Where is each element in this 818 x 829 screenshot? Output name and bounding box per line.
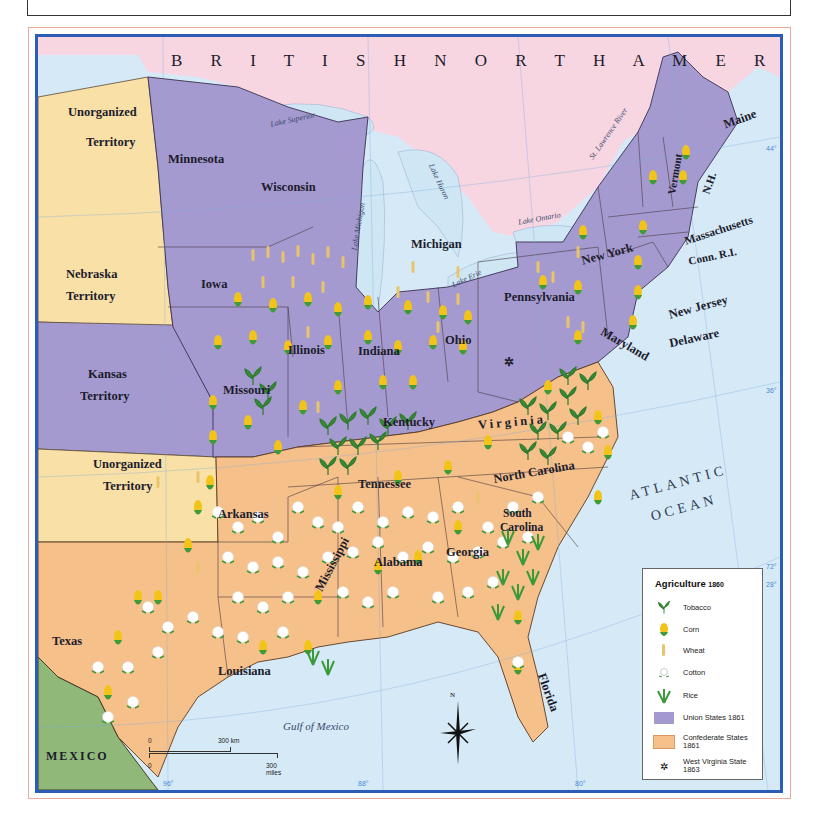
rice-icon xyxy=(653,689,675,703)
legend-item-union: Union States 1861 xyxy=(653,708,758,728)
label-minnesota: Minnesota xyxy=(168,152,224,167)
label-british-north-america: B R I T I S H N O R T H A M E R I C A xyxy=(171,51,783,71)
label-michigan: Michigan xyxy=(411,237,462,252)
label-tennessee: Tennessee xyxy=(358,477,411,492)
agriculture-map: B R I T I S H N O R T H A M E R I C A ME… xyxy=(35,34,783,793)
tobacco-icon xyxy=(653,601,675,615)
label-ohio: Ohio xyxy=(445,333,471,348)
label-georgia: Georgia xyxy=(446,545,489,560)
label-louisiana: Louisiana xyxy=(218,664,271,679)
lon-88-label: 88° xyxy=(358,780,369,787)
label-illinois: Illinois xyxy=(288,343,325,358)
lat-36-label: 36° xyxy=(766,387,777,394)
label-unorganized-south-2: Territory xyxy=(103,479,153,494)
label-texas: Texas xyxy=(52,634,82,649)
label-south-carolina: South xyxy=(503,507,532,519)
lat-44-label: 44° xyxy=(766,145,777,152)
west-virginia-icon: ✲ xyxy=(653,759,675,773)
legend-item-corn: Corn xyxy=(653,620,758,640)
corn-icon xyxy=(653,623,675,637)
label-nebraska-2: Territory xyxy=(66,289,116,304)
legend-item-wheat: Wheat xyxy=(653,641,758,661)
lat-28-label: 28° xyxy=(766,581,777,588)
legend-item-rice: Rice xyxy=(653,686,758,706)
label-unorganized-north: Unorganized xyxy=(68,105,137,120)
caption-box xyxy=(27,0,791,16)
scale-km-zero: 0 xyxy=(148,737,152,744)
west-virginia-icon: ✲ xyxy=(504,355,514,370)
compass-icon xyxy=(438,693,478,768)
compass-north-label: N xyxy=(450,691,455,699)
confederate-swatch xyxy=(653,735,675,749)
label-wisconsin: Wisconsin xyxy=(261,180,316,195)
scale-mi-zero: 0 xyxy=(148,762,152,769)
lon-80-label: 80° xyxy=(575,780,586,787)
label-nebraska: Nebraska xyxy=(66,267,117,282)
label-alabama: Alabama xyxy=(374,555,423,570)
label-pennsylvania: Pennsylvania xyxy=(504,290,575,305)
label-kansas: Kansas xyxy=(88,367,127,382)
label-mexico: MEXICO xyxy=(46,749,109,764)
wheat-icon xyxy=(653,644,675,658)
scale-km-label: 300 km xyxy=(218,737,239,744)
label-unorganized-south: Unorganized xyxy=(93,457,162,472)
scale-bar: 0 300 km 0 300 miles xyxy=(148,737,288,782)
label-missouri: Missouri xyxy=(223,383,270,398)
label-south-carolina-2: Carolina xyxy=(500,521,543,533)
label-kentucky: Kentucky xyxy=(383,415,435,430)
compass-rose: N xyxy=(438,693,478,772)
union-swatch xyxy=(654,712,674,724)
lon-72-label: 72° xyxy=(766,563,777,570)
label-gulf-of-mexico: Gulf of Mexico xyxy=(283,720,349,732)
legend-box: Agriculture 1860 Tobacco Corn Wheat Cott… xyxy=(642,568,763,780)
legend-item-west-virginia: ✲ West Virginia State 1863 xyxy=(653,756,758,776)
label-unorganized-north-2: Territory xyxy=(86,135,136,150)
legend-title: Agriculture 1860 xyxy=(655,578,724,589)
label-kansas-2: Territory xyxy=(80,389,130,404)
legend-item-cotton: Cotton xyxy=(653,663,758,683)
label-arkansas: Arkansas xyxy=(218,507,269,522)
cotton-icon xyxy=(653,666,675,680)
label-iowa: Iowa xyxy=(201,277,227,292)
legend-item-confederate: Confederate States 1861 xyxy=(653,732,758,752)
label-indiana: Indiana xyxy=(358,344,400,359)
scale-mi-label: 300 miles xyxy=(266,762,288,776)
legend-item-tobacco: Tobacco xyxy=(653,598,758,618)
